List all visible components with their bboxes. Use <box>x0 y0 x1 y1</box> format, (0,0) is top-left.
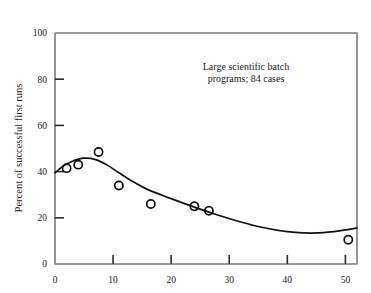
x-tick-label-10: 10 <box>108 275 118 285</box>
data-point <box>94 148 102 156</box>
data-point <box>115 181 123 189</box>
x-tick-label-50: 50 <box>341 275 351 285</box>
x-tick-label-40: 40 <box>283 275 293 285</box>
annotation-block: Large scientific batch programs; 84 case… <box>203 61 289 84</box>
y-axis-ticks <box>55 79 64 218</box>
y-axis-tick-labels: 020406080100 <box>33 28 48 269</box>
y-tick-label-0: 0 <box>42 259 47 269</box>
x-axis-ticks <box>113 255 345 264</box>
y-tick-label-60: 60 <box>38 121 48 131</box>
data-point-markers <box>63 148 353 244</box>
data-point <box>63 164 71 172</box>
y-tick-label-40: 40 <box>38 167 48 177</box>
x-axis-tick-labels: 01020304050 <box>53 275 351 285</box>
x-tick-label-0: 0 <box>53 275 58 285</box>
y-axis-title: Percent of successful first runs <box>13 84 24 213</box>
x-tick-label-20: 20 <box>166 275 176 285</box>
y-tick-label-100: 100 <box>33 28 48 38</box>
data-point <box>74 161 82 169</box>
fitted-trend-curve <box>55 158 357 233</box>
annotation-line-2: programs; 84 cases <box>208 73 285 84</box>
y-tick-label-20: 20 <box>38 213 48 223</box>
chart-page: 020406080100 01020304050 Percent of succ… <box>0 0 371 293</box>
x-tick-label-30: 30 <box>224 275 234 285</box>
y-tick-label-80: 80 <box>38 75 48 85</box>
scatter-plot-figure: 020406080100 01020304050 Percent of succ… <box>0 0 371 293</box>
annotation-line-1: Large scientific batch <box>203 61 289 72</box>
data-point <box>147 200 155 208</box>
data-point <box>344 236 352 244</box>
